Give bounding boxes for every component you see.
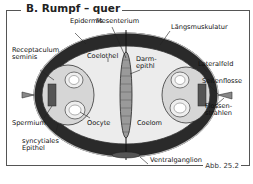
left-fin <box>22 92 34 98</box>
label-mesenterium: Mesenterium <box>96 18 139 25</box>
label-laengsmuskulatur: Längsmuskulatur <box>171 24 228 31</box>
label-lateralfeld: Lateralfeld <box>198 61 233 68</box>
label-oocyte: Oocyte <box>87 120 110 127</box>
label-receptaculum-seminis: Receptaculum seminis <box>12 47 59 62</box>
gut-epithelium <box>120 52 132 138</box>
label-darmepithel: Darm- epithl <box>136 56 157 71</box>
ventral-ganglion <box>112 152 140 158</box>
right-fin <box>218 92 232 99</box>
label-flossenstrahlen: Flossen- strahlen <box>205 103 232 118</box>
label-seitenflosse: Seitenflosse <box>202 78 242 85</box>
figure-caption: Abb. 25.2 <box>203 162 241 170</box>
label-syncytiales-epithel: syncytiales Epithel <box>22 138 59 153</box>
label-spermium: Spermium <box>12 120 46 127</box>
label-coelom: Coelom <box>137 120 162 127</box>
label-ventralganglion: Ventralganglion <box>150 157 202 164</box>
label-coelothel: Coelothel <box>87 53 118 60</box>
